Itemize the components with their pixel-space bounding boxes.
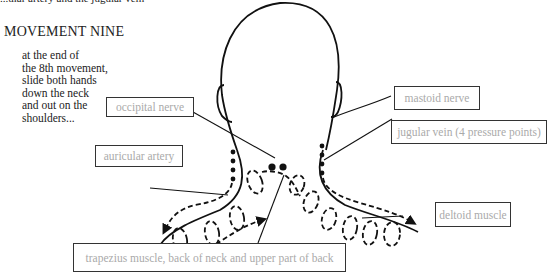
label-trapezius: trapezius muscle, back of neck and upper… bbox=[73, 243, 346, 272]
label-occipital-nerve: occipital nerve bbox=[106, 97, 194, 117]
label-deltoid-muscle: deltoid muscle bbox=[435, 202, 511, 227]
leader-lines bbox=[150, 96, 403, 243]
label-jugular-vein: jugular vein (4 pressure points) bbox=[391, 120, 547, 144]
pressure-points bbox=[231, 144, 325, 182]
movement-paths bbox=[165, 168, 412, 253]
label-auricular-artery: auricular artery bbox=[95, 145, 183, 167]
label-mastoid-nerve: mastoid nerve bbox=[394, 86, 480, 110]
